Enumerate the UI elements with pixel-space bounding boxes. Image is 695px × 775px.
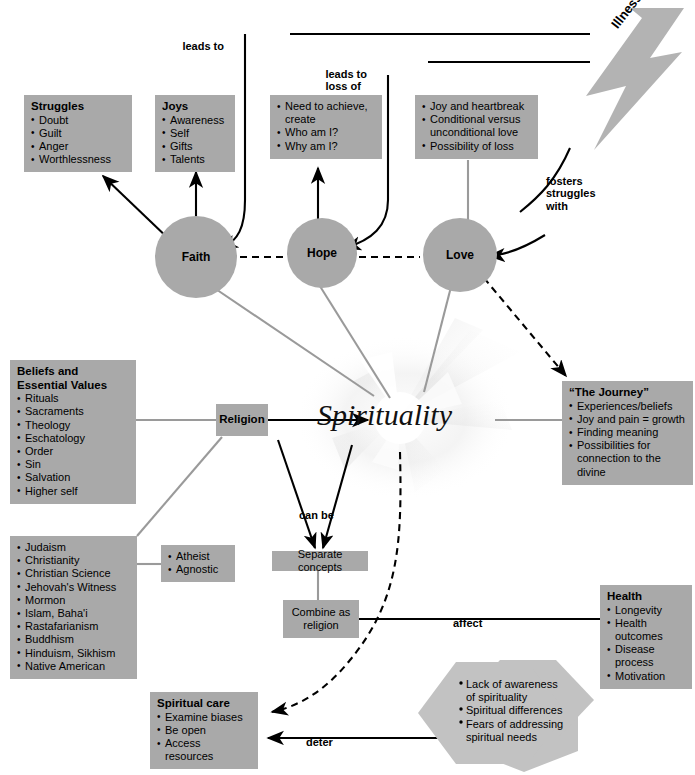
list-item: Judaism	[17, 541, 130, 554]
link-love-to-center	[424, 283, 452, 392]
node-health[interactable]: Health Longevity Health outcomes Disease…	[600, 585, 692, 689]
list-item: Joy and pain = growth	[569, 413, 686, 426]
list-item: Sacraments	[17, 405, 129, 418]
fosters-struggles-with-text: fosters struggles with	[546, 175, 596, 212]
node-love-attributes[interactable]: Joy and heartbreak Conditional versus un…	[415, 95, 538, 159]
list-item: Native American	[17, 660, 130, 673]
link-religion-to-religions	[137, 437, 222, 536]
circle-love[interactable]: Love	[423, 218, 497, 292]
node-religions-list[interactable]: Judaism Christianity Christian Science J…	[10, 536, 137, 679]
journey-list: Experiences/beliefs Joy and pain = growt…	[569, 400, 686, 479]
health-heading: Health	[607, 590, 685, 604]
list-item: Mormon	[17, 594, 130, 607]
circle-hope[interactable]: Hope	[287, 218, 357, 288]
node-beliefs-and-essential-values[interactable]: Beliefs and Essential Values Rituals Sac…	[10, 360, 136, 504]
love-label: Love	[446, 248, 474, 262]
list-item: Possibility of loss	[422, 140, 531, 153]
list-item: Hinduism, Sikhism	[17, 647, 130, 660]
joys-heading: Joys	[162, 100, 228, 114]
list-item: Fears of addressing spiritual needs	[458, 718, 588, 744]
dashed-love-to-journey	[484, 278, 566, 376]
node-spiritual-care[interactable]: Spiritual care Examine biases Be open Ac…	[150, 692, 258, 769]
list-item: Jehovah's Witness	[17, 581, 130, 594]
arrow-fosters-to-love	[489, 235, 545, 256]
list-item: Lack of awareness of spirituality	[458, 678, 588, 704]
list-item: Possibilities for connection to the divi…	[569, 439, 686, 479]
node-struggles[interactable]: Struggles Doubt Guilt Anger Worthlessnes…	[24, 95, 132, 172]
hope-label: Hope	[307, 246, 337, 260]
leads-to-loss-of-text: leads to loss of	[325, 68, 367, 93]
spiritual-care-heading: Spiritual care	[157, 697, 251, 711]
list-item: Higher self	[17, 485, 129, 498]
list-item: Gifts	[162, 140, 228, 153]
list-item: Who am I?	[277, 126, 375, 139]
list-item: Rituals	[17, 392, 129, 405]
list-item: Christianity	[17, 554, 130, 567]
node-separate-concepts[interactable]: Separate concepts	[272, 551, 368, 571]
link-hope-to-center	[318, 283, 390, 398]
node-the-journey[interactable]: “The Journey” Experiences/beliefs Joy an…	[562, 381, 693, 485]
circle-faith[interactable]: Faith	[155, 216, 237, 298]
node-combine-as-religion[interactable]: Combine as religion	[283, 600, 359, 638]
list-item: Examine biases	[157, 711, 251, 724]
list-item: Be open	[157, 724, 251, 737]
list-item: Sin	[17, 458, 129, 471]
node-nonbelief[interactable]: Atheist Agnostic	[161, 545, 235, 582]
love-attributes-list: Joy and heartbreak Conditional versus un…	[422, 100, 531, 153]
dashed-link-lines: The Journey -->	[228, 257, 566, 712]
spirituality-label: Spirituality	[317, 398, 452, 431]
dashed-spirituality-to-care	[272, 452, 400, 712]
list-item: Joy and heartbreak	[422, 100, 531, 113]
affect-text: affect	[453, 617, 482, 629]
edge-label-deter: deter	[306, 723, 333, 748]
beliefs-list: Rituals Sacraments Theology Eschatology …	[17, 392, 129, 498]
spiritual-care-list: Examine biases Be open Access resources	[157, 711, 251, 764]
list-item: Health outcomes	[607, 617, 685, 643]
list-item: Access resources	[157, 737, 251, 763]
center-title-spirituality: Spirituality	[317, 398, 452, 432]
node-barriers[interactable]: Lack of awareness of spirituality Spirit…	[458, 678, 588, 744]
faith-label: Faith	[182, 250, 211, 264]
node-religion[interactable]: Religion	[216, 404, 268, 436]
node-joys[interactable]: Joys Awareness Self Gifts Talents	[155, 95, 235, 172]
list-item: Agnostic	[168, 563, 228, 576]
nonbelief-list: Atheist Agnostic	[168, 550, 228, 576]
illness-text: Illness	[608, 0, 645, 31]
struggles-list: Doubt Guilt Anger Worthlessness	[31, 114, 125, 167]
list-item: Why am I?	[277, 140, 375, 153]
node-hope-attributes[interactable]: Need to achieve, create Who am I? Why am…	[270, 95, 382, 159]
list-item: Experiences/beliefs	[569, 400, 686, 413]
list-item: Guilt	[31, 127, 125, 140]
illness-lightning-bolt	[586, 8, 684, 150]
list-item: Islam, Baha'i	[17, 607, 130, 620]
list-item: Order	[17, 445, 129, 458]
health-list: Longevity Health outcomes Disease proces…	[607, 604, 685, 683]
beliefs-heading: Beliefs and Essential Values	[17, 365, 129, 392]
combine-as-religion-label: Combine as religion	[292, 606, 351, 632]
separate-concepts-label: Separate concepts	[278, 548, 362, 574]
barriers-list: Lack of awareness of spirituality Spirit…	[458, 678, 588, 744]
list-item: Doubt	[31, 114, 125, 127]
list-item: Longevity	[607, 604, 685, 617]
edge-label-leads-to-loss-of: leads to loss of	[325, 55, 373, 93]
list-item: Awareness	[162, 114, 228, 127]
list-item: Rastafarianism	[17, 620, 130, 633]
list-item: Need to achieve, create	[277, 100, 375, 126]
link-faith-to-center	[204, 281, 374, 396]
list-item: Spiritual differences	[458, 704, 588, 717]
list-item: Anger	[31, 140, 125, 153]
list-item: Motivation	[607, 670, 685, 683]
list-item: Atheist	[168, 550, 228, 563]
edge-label-affect: affect	[453, 604, 482, 629]
list-item: Disease process	[607, 643, 685, 669]
list-item: Eschatology	[17, 432, 129, 445]
list-item: Buddhism	[17, 633, 130, 646]
journey-heading: “The Journey”	[569, 386, 686, 400]
list-item: Finding meaning	[569, 426, 686, 439]
struggles-heading: Struggles	[31, 100, 125, 114]
list-item: Conditional versus unconditional love	[422, 113, 531, 139]
list-item: Christian Science	[17, 567, 130, 580]
arrow-religion-to-separate	[278, 440, 315, 548]
can-be-text: can be	[299, 509, 334, 521]
arrow-faith-to-struggles	[103, 176, 172, 242]
